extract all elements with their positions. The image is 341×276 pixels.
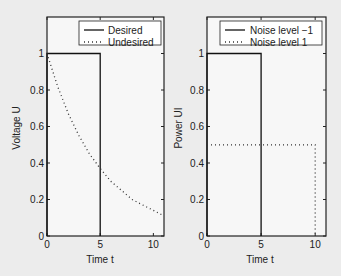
y-tick-label: 0.8: [190, 85, 204, 96]
left-y-label: Voltage U: [11, 106, 22, 149]
x-tick-label: 0: [204, 239, 210, 250]
left-legend: Desired Undesired: [79, 21, 161, 48]
x-tick-label: 5: [258, 239, 264, 250]
legend-noise-minus1: Noise level −1: [250, 25, 314, 36]
y-tick-label: 0.2: [190, 194, 204, 205]
x-tick-label: 10: [148, 239, 160, 250]
x-tick-label: 5: [97, 239, 103, 250]
right-y-label: Power UI: [173, 107, 184, 148]
left-axes-box: [47, 17, 164, 236]
right-axes-box: [207, 17, 326, 236]
y-tick-label: 0.6: [190, 121, 204, 132]
legend-desired: Desired: [108, 25, 142, 36]
y-tick-label: 0.6: [30, 121, 44, 132]
right-x-label: Time t: [246, 254, 274, 265]
legend-undesired: Undesired: [108, 37, 154, 48]
y-tick-label: 0.2: [30, 194, 44, 205]
legend-noise-1: Noise level 1: [250, 37, 308, 48]
right-legend: Noise level −1 Noise level 1: [220, 21, 322, 48]
y-tick-label: 0.4: [30, 158, 44, 169]
x-tick-label: 10: [310, 239, 322, 250]
y-tick-label: 0.8: [30, 85, 44, 96]
y-tick-label: 1: [38, 48, 44, 59]
x-tick-label: 0: [44, 239, 50, 250]
left-x-label: Time t: [86, 254, 114, 265]
right-plot: 00.20.40.60.81 0510 Noise level −1 Noise…: [173, 17, 326, 265]
y-tick-label: 1: [198, 48, 204, 59]
left-plot: 00.20.40.60.81 0510 Desired Undesired Vo…: [11, 17, 164, 265]
y-tick-label: 0.4: [190, 158, 204, 169]
